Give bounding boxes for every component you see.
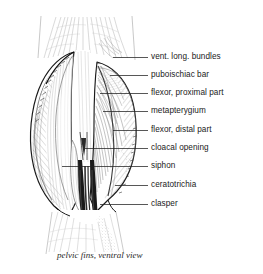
label-flexor-proximal: flexor, proximal part <box>151 88 224 97</box>
label-flexor-distal: flexor, distal part <box>151 125 212 134</box>
label-metapterygium: metapterygium <box>151 106 206 115</box>
label-clasper: clasper <box>151 199 178 208</box>
figure-caption: pelvic fins, ventral view <box>57 250 142 260</box>
label-vent-long-bundles: vent. long. bundles <box>151 52 221 61</box>
label-cloacal-opening: cloacal opening <box>151 143 209 152</box>
label-siphon: siphon <box>151 161 175 170</box>
pelvic-fins-drawing <box>0 0 263 274</box>
anatomical-figure <box>0 0 263 274</box>
label-puboischiac-bar: puboischiac bar <box>151 70 209 79</box>
label-ceratotrichia: ceratotrichia <box>151 180 196 189</box>
